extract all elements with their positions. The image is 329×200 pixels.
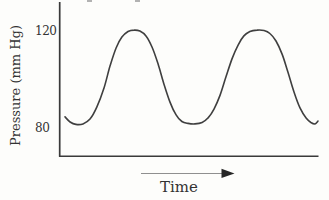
y-tick-80: 80 [35,122,49,135]
pressure-curve [65,30,318,125]
blood-pressure-chart: 120 80 Pressure (mm Hg) Time [0,0,329,200]
y-tick-120: 120 [35,25,56,38]
time-arrow-head [222,169,235,178]
cropped-text-fragment [135,0,140,2]
y-axis-title: Pressure (mm Hg) [7,14,24,158]
cropped-text-fragment [87,0,92,2]
x-axis-title: Time [149,178,209,196]
